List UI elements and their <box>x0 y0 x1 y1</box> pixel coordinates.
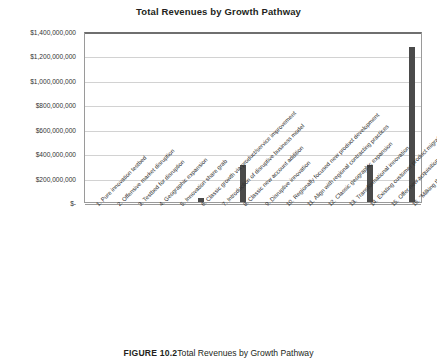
y-axis-tick-label: $600,000,000 <box>36 126 76 133</box>
y-axis-tick-label: $200,000,000 <box>36 175 76 182</box>
y-axis-tick-label: $400,000,000 <box>36 151 76 158</box>
x-axis-tick-label: 7. Introduction of disruptive business m… <box>221 203 225 207</box>
caption-text: Total Revenues by Growth Pathway <box>177 348 313 358</box>
x-axis-tick-label: 12. Classic geographic expansion <box>327 203 331 207</box>
x-axis: 1. Pure innovation testbed2. Offensive m… <box>84 203 422 353</box>
y-axis-tick-label: $1,200,000,000 <box>30 53 76 60</box>
gridline <box>85 57 421 58</box>
x-axis-tick-label: 16. "Milking the cow" <box>411 203 415 207</box>
x-axis-tick-label: 2. Offensive market disruption <box>116 203 120 207</box>
x-axis-tick-label: 15. Offer new acquisition models <box>390 203 394 207</box>
figure-container: Total Revenues by Growth Pathway $1,400,… <box>0 0 437 362</box>
y-axis-tick-label: $1,000,000,000 <box>30 77 76 84</box>
x-axis-tick-label: 8. Classic new account addition <box>242 203 246 207</box>
gridline <box>85 33 421 34</box>
x-axis-tick-label: 14. Existing customer product migration <box>369 203 373 207</box>
gridline <box>85 131 421 132</box>
x-axis-tick-label: 10. Regionally focused new product devel… <box>285 203 289 207</box>
x-axis-tick-label: 11. Align with regional contracting prac… <box>306 203 310 207</box>
x-axis-tick-label: 1. Pure innovation testbed <box>95 203 99 207</box>
caption-label: FIGURE 10.2 <box>124 348 178 358</box>
chart-title: Total Revenues by Growth Pathway <box>0 6 437 17</box>
y-axis-tick-label: $- <box>70 200 76 207</box>
x-axis-tick-label: 6. Classic growth via product/service im… <box>200 203 204 207</box>
x-axis-tick-label: 13. Transformational innovation <box>348 203 352 207</box>
y-axis-tick-label: $800,000,000 <box>36 102 76 109</box>
gridline <box>85 106 421 107</box>
y-axis-tick-label: $1,400,000,000 <box>30 29 76 36</box>
x-axis-tick-label: 5. Innovation share grab <box>179 203 183 207</box>
x-axis-tick-label: 3. Testbed for disruption <box>137 203 141 207</box>
gridline <box>85 82 421 83</box>
x-axis-tick-label: 4. Geographic expansion <box>158 203 162 207</box>
figure-caption: FIGURE 10.2Total Revenues by Growth Path… <box>0 348 437 358</box>
y-axis: $1,400,000,000$1,200,000,000$1,000,000,0… <box>0 32 80 203</box>
x-axis-tick-label: 9. Disruptive innovation <box>264 203 268 207</box>
